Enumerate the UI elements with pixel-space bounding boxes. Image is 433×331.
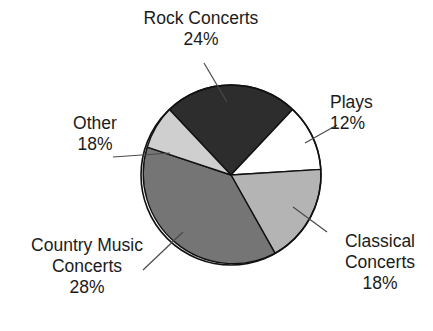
- pie-label-country-music-concerts-name-2: Concerts: [8, 256, 166, 277]
- pie-label-plays: Plays 12%: [330, 92, 426, 134]
- pie-label-other-name: Other: [40, 113, 150, 134]
- pie-label-rock-concerts: Rock Concerts 24%: [118, 8, 284, 50]
- pie-label-country-music-concerts-name-1: Country Music: [8, 235, 166, 256]
- pie-label-rock-concerts-value: 24%: [118, 29, 284, 50]
- pie-label-rock-concerts-name: Rock Concerts: [118, 8, 284, 29]
- pie-label-classical-concerts-name-2: Concerts: [330, 252, 430, 273]
- pie-label-classical-concerts-name-1: Classical: [330, 231, 430, 252]
- pie-label-country-music-concerts: Country Music Concerts 28%: [8, 235, 166, 298]
- pie-label-plays-name: Plays: [330, 92, 426, 113]
- pie-label-other: Other 18%: [40, 113, 150, 155]
- pie-label-country-music-concerts-value: 28%: [8, 277, 166, 298]
- pie-label-plays-value: 12%: [330, 113, 426, 134]
- pie-label-classical-concerts: Classical Concerts 18%: [330, 231, 430, 294]
- pie-chart-page: Ticket Sales Rock Concerts 24% Plays 12%…: [0, 0, 433, 331]
- pie-label-other-value: 18%: [40, 134, 150, 155]
- pie-label-classical-concerts-value: 18%: [330, 273, 430, 294]
